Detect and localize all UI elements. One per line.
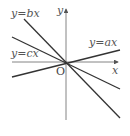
coordinate-diagram: y=bx y=cx y=ax y x O bbox=[0, 0, 130, 136]
label-y-ax: y=ax bbox=[88, 36, 118, 49]
x-axis-label: x bbox=[112, 64, 119, 77]
label-y-bx: y=bx bbox=[10, 7, 40, 20]
line-y-bx bbox=[24, 19, 120, 118]
origin-label: O bbox=[56, 65, 65, 78]
y-axis-label: y bbox=[56, 4, 64, 17]
label-y-cx: y=cx bbox=[10, 47, 40, 60]
